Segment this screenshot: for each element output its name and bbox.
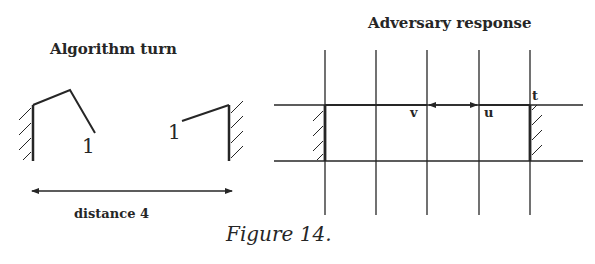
figure-caption: Figure 14. — [226, 222, 332, 246]
algorithm-turn-title: Algorithm turn — [50, 40, 177, 58]
right-robot-label: 1 — [168, 120, 181, 144]
grid-right-wall — [530, 105, 542, 161]
left-robot-path — [33, 90, 95, 133]
distance-label: distance 4 — [74, 206, 149, 221]
right-robot-path — [182, 105, 229, 121]
grid-left-wall — [313, 105, 325, 161]
left-wall — [19, 105, 33, 161]
left-robot-label: 1 — [82, 134, 95, 158]
adversary-response-title: Adversary response — [368, 14, 532, 32]
grid — [274, 50, 583, 215]
right-wall — [229, 101, 243, 161]
node-label-u: u — [484, 105, 493, 120]
node-label-v: v — [410, 105, 418, 120]
node-label-t: t — [532, 88, 538, 103]
